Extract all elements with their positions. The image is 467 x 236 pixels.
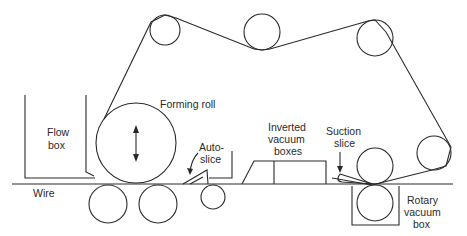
table-roll-2 — [139, 185, 177, 223]
double-arrow-icon — [133, 125, 139, 162]
label-suction-slice: slice — [334, 137, 355, 149]
label-rotary-box: box — [413, 218, 431, 230]
label-wire: Wire — [33, 187, 55, 199]
label-box: box — [48, 139, 66, 151]
guide-roll-top-left — [150, 15, 180, 45]
label-rotary: Rotary — [407, 194, 439, 206]
table-roll-3 — [201, 185, 225, 209]
label-auto: Auto- — [199, 141, 225, 153]
rotary-vacuum-box — [352, 186, 399, 225]
guide-roll-top-right — [357, 20, 393, 56]
rotary-vacuum-roll — [357, 185, 393, 221]
guide-roll-top-middle — [244, 14, 280, 50]
label-flow: Flow — [47, 126, 70, 138]
label-vacuum: vacuum — [268, 133, 305, 145]
label-inverted: Inverted — [268, 121, 306, 133]
label-slice: slice — [200, 153, 221, 165]
label-forming-roll: Forming roll — [160, 98, 215, 110]
label-suction: Suction — [326, 125, 361, 137]
label-rotary-vacuum: vacuum — [404, 206, 441, 218]
label-boxes: boxes — [274, 145, 302, 157]
inverted-vacuum-boxes — [242, 161, 326, 184]
suction-roll-top — [357, 148, 393, 184]
paper-machine-diagram: Flow box Wire Forming roll Auto- slice I… — [0, 0, 467, 236]
table-roll-1 — [89, 185, 127, 223]
guide-roll-right — [417, 136, 451, 170]
